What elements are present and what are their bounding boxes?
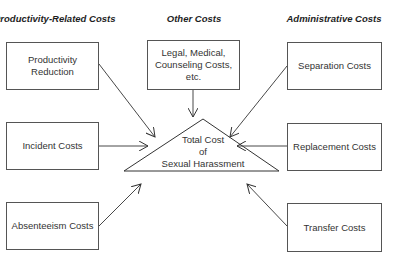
box-replacement-costs: Replacement Costs (287, 123, 382, 171)
box-separation-costs: Separation Costs (287, 42, 382, 90)
box-productivity-reduction: Productivity Reduction (6, 42, 99, 90)
box-label: Productivity Reduction (23, 54, 83, 78)
box-label: Incident Costs (22, 140, 82, 152)
total-cost-label: Total Cost of Sexual Harassment (140, 134, 266, 170)
box-transfer-costs: Transfer Costs (287, 203, 382, 252)
box-label: Separation Costs (298, 60, 371, 72)
box-incident-costs: Incident Costs (6, 122, 99, 170)
box-label-line1: Legal, Medical, (162, 47, 226, 59)
header-administrative-costs: Administrative Costs (283, 13, 385, 24)
header-productivity-related-costs: Productivity-Related Costs (0, 13, 114, 24)
box-label-line3: etc. (186, 71, 201, 83)
total-cost-line3: Sexual Harassment (140, 158, 266, 170)
header-other-costs: Other Costs (148, 13, 240, 24)
box-label: Transfer Costs (304, 222, 366, 234)
box-label: Absenteeism Costs (12, 220, 94, 232)
box-absenteeism-costs: Absenteeism Costs (6, 202, 99, 250)
box-legal-medical-counseling-costs: Legal, Medical, Counseling Costs, etc. (147, 40, 240, 90)
total-cost-line1: Total Cost (140, 134, 266, 146)
total-cost-line2: of (140, 146, 266, 158)
box-label: Replacement Costs (293, 141, 376, 153)
box-label-line2: Counseling Costs, (155, 59, 232, 71)
